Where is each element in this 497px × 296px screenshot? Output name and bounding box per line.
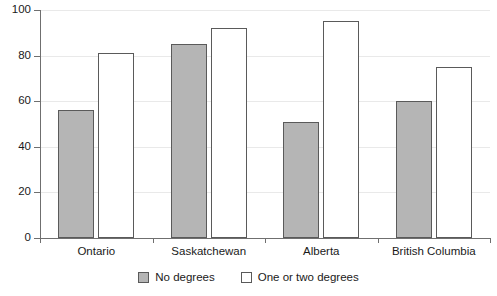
bar-saskatchewan-no-degrees [171,44,207,238]
bar-chart: 020406080100 OntarioSaskatchewanAlbertaB… [0,0,497,296]
chart-legend: No degreesOne or two degrees [0,272,497,284]
x-tick-mark-2 [265,238,266,243]
legend-item-no-degrees[interactable]: No degrees [138,272,214,284]
bar-british-columbia-no-degrees [396,101,432,238]
category-label-saskatchewan: Saskatchewan [153,245,266,258]
y-tick-mark-60 [34,101,40,102]
y-tick-mark-100 [34,10,40,11]
y-tick-label-40: 40 [1,141,31,153]
category-label-british-columbia: British Columbia [378,245,491,258]
legend-swatch-icon-white [241,272,252,283]
legend-label: No degrees [155,272,214,284]
y-tick-label-0: 0 [1,232,31,244]
x-tick-mark-1 [153,238,154,243]
bar-ontario-no-degrees [58,110,94,238]
gridline-100 [40,10,490,11]
bar-alberta-no-degrees [283,122,319,238]
legend-swatch-icon-gray [138,272,149,283]
bar-saskatchewan-one-or-two-degrees [211,28,247,238]
y-tick-label-20: 20 [1,186,31,198]
y-axis-line [40,10,41,239]
bar-british-columbia-one-or-two-degrees [436,67,472,238]
x-tick-mark-end [490,238,491,243]
y-tick-label-80: 80 [1,50,31,62]
legend-item-one-or-two-degrees[interactable]: One or two degrees [241,272,359,284]
y-tick-label-60: 60 [1,95,31,107]
clipped-title-strip [0,0,497,7]
category-label-alberta: Alberta [265,245,378,258]
y-tick-mark-80 [34,56,40,57]
y-tick-mark-20 [34,192,40,193]
y-tick-mark-40 [34,147,40,148]
bar-alberta-one-or-two-degrees [323,21,359,238]
y-tick-label-100: 100 [1,4,31,16]
bar-ontario-one-or-two-degrees [98,53,134,238]
category-label-ontario: Ontario [40,245,153,258]
legend-label: One or two degrees [258,272,359,284]
x-tick-mark-3 [378,238,379,243]
plot-area [40,10,490,238]
x-tick-mark-0 [40,238,41,243]
